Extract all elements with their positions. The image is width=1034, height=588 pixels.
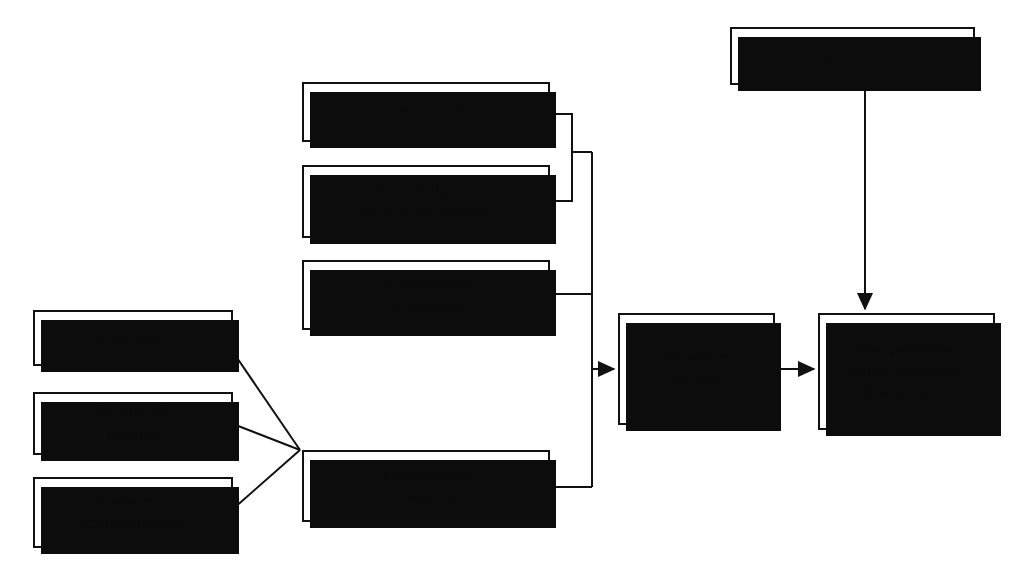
wire-attitudes-to-personality-factors [233,352,300,450]
node-context[interactable]: Context [730,27,975,85]
node-personality-factors[interactable]: Personality factors [302,450,550,522]
wire-personal-commitment-to-personality-factors [233,450,300,509]
wire-locus-of-control-to-personality-factors [233,424,300,450]
node-attitudes-label: Attitudes [93,327,172,349]
diagram-canvas: Action skills Knowledge of action strate… [0,0,1034,588]
node-intention-to-act[interactable]: Intention to act [618,313,775,425]
node-attitudes[interactable]: Attitudes [33,310,233,366]
node-personal-commitment-label: Personal commitment [80,491,186,535]
node-knowledge-of-issues-label: Knowledge of issues [377,273,474,317]
node-personality-factors-label: Personality factors [377,464,474,508]
node-locus-of-control-label: Locus of control [94,402,171,446]
node-knowledge-of-issues[interactable]: Knowledge of issues [302,260,550,330]
node-responsible-environmental-behaviour-label: Responsible environmental behaviour [846,339,966,404]
node-knowledge-of-action-strategies[interactable]: Knowledge of action strategies [302,165,550,238]
node-locus-of-control[interactable]: Locus of control [33,392,233,455]
node-context-label: Context [817,45,888,67]
node-action-skills[interactable]: Action skills [302,82,550,142]
node-responsible-environmental-behaviour[interactable]: Responsible environmental behaviour [818,313,995,430]
node-intention-to-act-label: Intention to act [657,347,735,391]
node-personal-commitment[interactable]: Personal commitment [33,477,233,548]
node-knowledge-of-action-strategies-label: Knowledge of action strategies [357,180,495,224]
node-action-skills-label: Action skills [375,101,477,123]
